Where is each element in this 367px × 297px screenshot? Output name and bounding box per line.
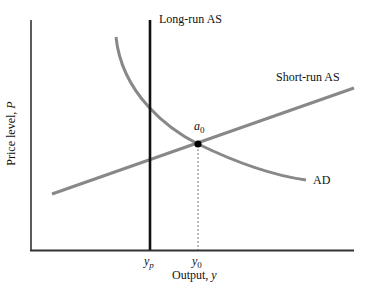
x-axis-label: Output, y — [172, 268, 217, 283]
ad-label: AD — [313, 173, 330, 188]
sras-label: Short-run AS — [276, 70, 340, 85]
equilibrium-point-a0 — [194, 140, 201, 147]
point-a0-label: a0 — [194, 119, 205, 135]
tick-yp-label: yp — [144, 254, 154, 270]
ad-curve — [116, 37, 306, 180]
lras-label: Long-run AS — [159, 12, 222, 27]
chart-canvas — [0, 0, 367, 297]
short-run-as-line — [52, 88, 354, 194]
y-axis-label: Price level, P — [4, 79, 19, 189]
